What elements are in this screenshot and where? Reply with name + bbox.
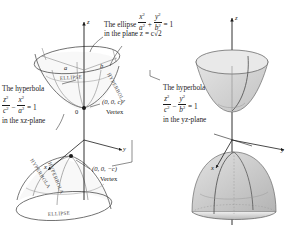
hyp-left-equals: = 1 [27,103,37,112]
hyp-right-minus: − [172,102,176,111]
ellipse-top-text: The ellipse [104,20,136,29]
right-lower-sheet [192,152,276,220]
semi-axis-label-b: b [100,62,103,69]
hyp-right-fraction-1: z2c2 [163,94,171,114]
hyp-left-minus: − [11,103,15,112]
annotation-hyperbola-left-line3: in the xz-plane [2,117,45,125]
right-axis-label-z: z [235,14,238,21]
right-upper-sheet [196,50,268,112]
ellipse-top-plus: + [148,20,152,29]
right-axis-label-y: y [281,146,284,153]
label-vertex-top-text: Vertex [106,108,123,115]
right-axis-label-x: x [211,164,214,171]
right-y-axis [232,140,284,150]
axis-label-z: z [87,18,90,25]
hyp-right-fraction-2: y2b2 [178,94,186,114]
label-vertex-bottom-point: (0, 0, −c) [92,165,117,172]
ellipse-top-equals: = 1 [164,20,174,29]
label-vertex-top-point: (0, 0, c) [102,98,123,105]
axis-label-x: x [44,163,47,170]
hyp-left-fraction-1: z2c2 [2,95,10,115]
y-axis [84,140,122,150]
label-vertex-bottom-text: Vertex [100,175,117,182]
origin-label: 0 [75,108,78,115]
leader-hyp-right [150,70,160,80]
leader-vertex-bottom [112,140,132,166]
hyp-left-fraction-2: x2a2 [17,95,25,115]
annotation-hyperbola-left-equation: z2c2 − x2a2 = 1 [2,95,37,115]
annotation-hyperbola-right-line3: in the yz-plane [163,116,206,124]
annotation-hyperbola-left-line1: The hyperbola [2,85,44,93]
hyp-right-equals: = 1 [188,102,198,111]
leader-hyp-left2 [56,114,64,130]
annotation-hyperbola-right-equation: z2c2 − y2b2 = 1 [163,94,198,114]
semi-axis-label-a: a [64,64,67,71]
right-axis-cross [214,134,252,146]
axis-label-y: y [123,145,126,152]
vertex-bottom-dot [69,154,73,158]
annotation-ellipse-top-line2: in the plane z = c√2 [104,30,162,38]
annotation-hyperbola-right-line1: The hyperbola [163,84,205,92]
curve-label-ellipse-bottom: ELLIPSE [48,209,71,217]
vertex-top-dot [82,106,86,110]
leader-ellipse-top [90,37,103,52]
